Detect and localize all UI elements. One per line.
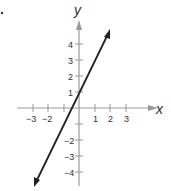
line-arrow-up-icon: [104, 29, 110, 39]
y-tick-label: 1: [68, 88, 73, 98]
y-axis-arrow-icon: [76, 20, 82, 30]
x-tick-label: 1: [93, 114, 98, 124]
y-tick-label: 2: [68, 72, 73, 82]
y-tick-label: −3: [64, 152, 74, 162]
y-tick-label: −2: [64, 136, 74, 146]
x-tick-label: −2: [42, 114, 52, 124]
x-tick-label: 3: [124, 114, 129, 124]
x-axis-label: x: [155, 101, 164, 117]
x-tick-label: 2: [108, 114, 113, 124]
y-tick-label: −4: [64, 168, 74, 178]
y-tick-label: 3: [68, 56, 73, 66]
y-axis: [75, 20, 83, 186]
x-axis: [17, 104, 158, 112]
x-tick-label: −3: [26, 114, 36, 124]
y-tick-label: 4: [68, 40, 73, 50]
line-graph: y x −3 −2 1 2 3 4 3 2 1 −2 −3 −4: [0, 0, 171, 191]
line-arrow-down-icon: [34, 177, 40, 187]
item-bullet: [1, 12, 3, 14]
y-axis-label: y: [73, 2, 82, 18]
